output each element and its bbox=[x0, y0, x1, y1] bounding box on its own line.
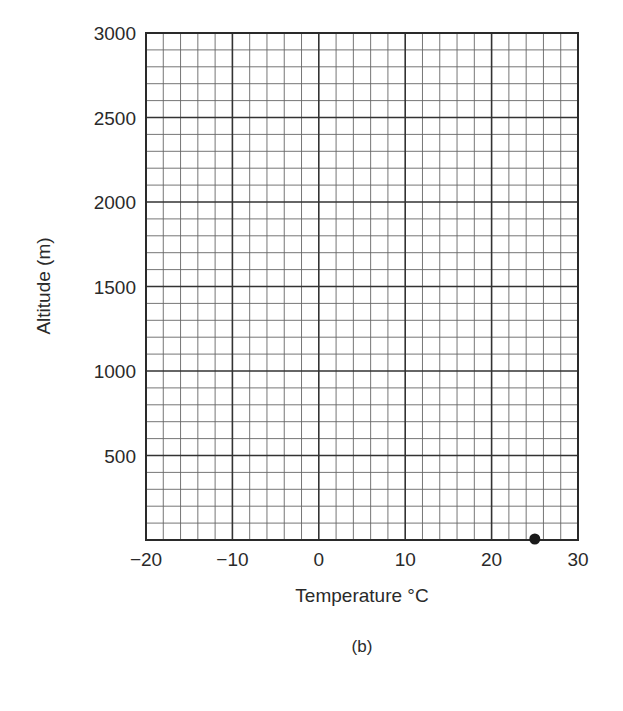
y-tick-label: 1500 bbox=[94, 277, 136, 298]
figure-caption: (b) bbox=[352, 637, 373, 656]
altitude-temperature-chart: −20−100102030 50010001500200025003000 Te… bbox=[0, 0, 623, 711]
x-tick-label: 0 bbox=[314, 549, 325, 570]
y-tick-label: 2500 bbox=[94, 108, 136, 129]
x-axis-label: Temperature °C bbox=[295, 585, 428, 606]
x-tick-label: −10 bbox=[216, 549, 248, 570]
y-axis-label: Altitude (m) bbox=[33, 237, 54, 334]
x-tick-label: −20 bbox=[130, 549, 162, 570]
y-tick-label: 2000 bbox=[94, 192, 136, 213]
x-tick-labels: −20−100102030 bbox=[130, 549, 589, 570]
major-grid bbox=[146, 33, 578, 540]
data-point bbox=[529, 534, 540, 545]
x-tick-label: 20 bbox=[481, 549, 502, 570]
x-tick-label: 30 bbox=[567, 549, 588, 570]
x-tick-label: 10 bbox=[395, 549, 416, 570]
y-tick-label: 1000 bbox=[94, 361, 136, 382]
y-tick-label: 3000 bbox=[94, 23, 136, 44]
y-tick-label: 500 bbox=[104, 446, 136, 467]
y-tick-labels: 50010001500200025003000 bbox=[94, 23, 136, 467]
plot-svg: −20−100102030 50010001500200025003000 Te… bbox=[0, 0, 623, 711]
data-points bbox=[529, 534, 540, 545]
